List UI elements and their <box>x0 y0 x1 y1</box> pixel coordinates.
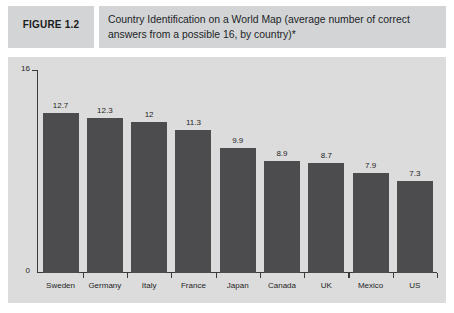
bar-italy <box>131 122 167 274</box>
bar-mexico <box>353 173 389 273</box>
bar-value-label: 8.9 <box>262 149 302 158</box>
bar-france <box>175 130 211 273</box>
y-axis-line <box>37 70 38 273</box>
x-axis-tick <box>304 273 305 278</box>
figure-number-box: FIGURE 1.2 <box>8 6 94 48</box>
figure-title-box: Country Identification on a World Map (a… <box>99 6 446 48</box>
bar-value-label: 8.7 <box>306 151 346 160</box>
bar-value-label: 9.9 <box>218 136 258 145</box>
bar-value-label: 7.9 <box>351 161 391 170</box>
bar-sweden <box>43 113 79 273</box>
y-axis-tick-max <box>32 70 38 71</box>
bar-japan <box>220 148 256 273</box>
bar-value-label: 12.7 <box>41 101 81 110</box>
bar-value-label: 11.3 <box>173 118 213 127</box>
figure-header: FIGURE 1.2 Country Identification on a W… <box>0 6 454 50</box>
x-axis-tick <box>260 273 261 278</box>
x-axis-tick <box>171 273 172 278</box>
x-axis-label-us: US <box>385 281 445 290</box>
figure-number-label: FIGURE 1.2 <box>8 19 94 30</box>
y-axis-label-min: 0 <box>14 266 30 275</box>
x-axis-tick <box>437 273 438 278</box>
chart-panel: 16 0 12.7Sweden12.3Germany12Italy11.3Fra… <box>8 57 446 303</box>
y-axis-label-max: 16 <box>14 64 30 73</box>
x-axis-tick <box>127 273 128 278</box>
bar-value-label: 12 <box>129 110 169 119</box>
x-axis-tick <box>393 273 394 278</box>
x-axis-tick <box>348 273 349 278</box>
bar-uk <box>308 163 344 273</box>
bar-germany <box>87 118 123 273</box>
bar-us <box>397 181 433 273</box>
bar-value-label: 7.3 <box>395 169 435 178</box>
x-axis-tick <box>216 273 217 278</box>
bar-chart-plot: 16 0 12.7Sweden12.3Germany12Italy11.3Fra… <box>8 57 446 303</box>
bar-value-label: 12.3 <box>85 106 125 115</box>
bar-canada <box>264 161 300 273</box>
x-axis-tick <box>83 273 84 278</box>
figure-title-text: Country Identification on a World Map (a… <box>108 12 439 42</box>
figure-page: FIGURE 1.2 Country Identification on a W… <box>0 0 454 313</box>
